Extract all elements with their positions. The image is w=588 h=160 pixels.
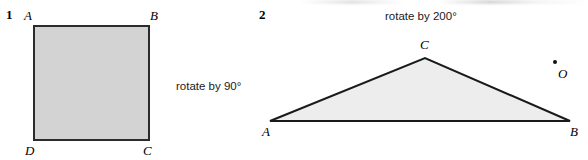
triangle-polygon xyxy=(270,58,570,121)
square-shape-abcd xyxy=(33,25,150,141)
scan-artifact xyxy=(300,0,588,4)
figure-number-1: 1 xyxy=(6,8,13,21)
square-vertex-label-b: B xyxy=(150,9,158,22)
rotation-center-label-o: O xyxy=(558,67,567,80)
figure-number-2: 2 xyxy=(259,8,266,21)
triangle-vertex-label-a: A xyxy=(262,125,270,138)
square-vertex-label-a: A xyxy=(24,9,32,22)
rotate-caption-figure-2: rotate by 200° xyxy=(385,11,457,23)
rotation-center-dot xyxy=(553,60,557,64)
square-vertex-label-d: D xyxy=(25,144,34,157)
triangle-vertex-label-c: C xyxy=(420,38,429,51)
triangle-shape-abc xyxy=(258,44,582,134)
worksheet-page: 1 A B C D rotate by 90° 2 rotate by 200°… xyxy=(0,0,588,160)
square-vertex-label-c: C xyxy=(143,144,152,157)
rotate-caption-figure-1: rotate by 90° xyxy=(176,81,241,93)
triangle-vertex-label-b: B xyxy=(570,125,578,138)
